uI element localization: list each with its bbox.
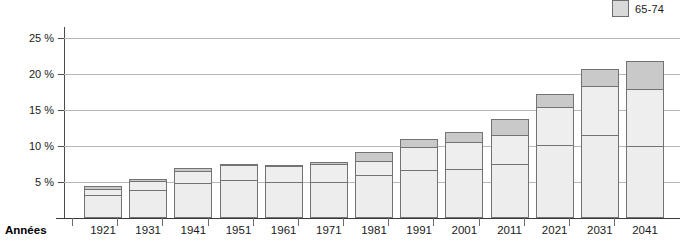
x-axis-tick-label: 2021: [542, 224, 568, 236]
chart-root: 65-74 25 %20 %15 %10 %5 % Années 1921193…: [0, 0, 690, 244]
x-axis-tick-label: 1951: [226, 224, 252, 236]
x-axis-line: [56, 218, 680, 219]
y-tick-mark: [58, 74, 64, 75]
bar-segment-75-84: [491, 135, 529, 165]
bar-segment-65-74: [129, 190, 167, 218]
bar-segment-65-74: [265, 182, 303, 218]
bar-segment-75-84: [536, 107, 574, 146]
bar-1941: [174, 168, 212, 218]
bar-1951: [220, 164, 258, 218]
bar-segment-65-74: [445, 169, 483, 218]
bar-segment-75-84: [400, 147, 438, 172]
y-tick-mark: [58, 110, 64, 111]
bar-segment-75-84: [445, 142, 483, 170]
x-axis-tick-label: 1961: [271, 224, 297, 236]
bar-1991: [400, 139, 438, 218]
bar-segment-65-74: [626, 146, 664, 218]
bar-2001: [445, 132, 483, 218]
bar-segment-85+: [626, 61, 664, 90]
x-axis-tick-label: 1941: [181, 224, 207, 236]
bar-segment-75-84: [626, 89, 664, 147]
bar-segment-65-74: [400, 170, 438, 218]
y-axis-line: [64, 27, 65, 218]
bar-1971: [310, 162, 348, 218]
gridline: [64, 38, 680, 39]
bar-1931: [129, 179, 167, 218]
bar-segment-75-84: [310, 164, 348, 183]
x-axis-tick-label: 2001: [452, 224, 478, 236]
y-axis-tick-label: 15 %: [0, 104, 54, 116]
x-axis-tick-label: 2041: [632, 224, 658, 236]
plot-area: [64, 27, 680, 218]
chart-legend: 65-74: [612, 0, 664, 17]
bar-1981: [355, 152, 393, 218]
x-axis-tick-label: 1931: [135, 224, 161, 236]
bar-2031: [581, 69, 619, 218]
bar-2041: [626, 61, 664, 218]
bar-segment-65-74: [310, 182, 348, 218]
x-axis-tick-label: 1991: [406, 224, 432, 236]
x-axis-tick-label: 2031: [587, 224, 613, 236]
legend-swatch-icon: [612, 0, 629, 17]
y-axis-tick-label: 25 %: [0, 32, 54, 44]
bar-segment-85+: [491, 119, 529, 136]
bar-2011: [491, 119, 529, 218]
x-axis-tick-label: 1981: [361, 224, 387, 236]
bar-segment-65-74: [174, 183, 212, 218]
y-tick-mark: [58, 146, 64, 147]
bar-segment-65-74: [355, 175, 393, 218]
x-axis-tick-label: 1921: [90, 224, 116, 236]
legend-label: 65-74: [635, 3, 664, 15]
x-axis-tick-label: 1971: [316, 224, 342, 236]
bar-segment-75-84: [581, 86, 619, 136]
y-tick-mark: [58, 182, 64, 183]
bar-1961: [265, 165, 303, 218]
bar-2021: [536, 94, 574, 218]
bar-segment-75-84: [265, 166, 303, 183]
bar-segment-75-84: [220, 165, 258, 181]
y-axis-tick-label: 5 %: [0, 176, 54, 188]
y-tick-mark: [58, 38, 64, 39]
bar-segment-65-74: [536, 145, 574, 218]
y-axis-tick-label: 10 %: [0, 140, 54, 152]
y-axis-tick-label: 20 %: [0, 68, 54, 80]
bar-segment-65-74: [581, 135, 619, 218]
bar-segment-75-84: [174, 171, 212, 185]
bar-segment-65-74: [84, 195, 122, 218]
x-axis-labels: 1921193119411951196119711981199120012011…: [0, 224, 690, 244]
bar-segment-65-74: [220, 180, 258, 218]
bar-segment-65-74: [491, 164, 529, 218]
x-axis-tick-label: 2011: [497, 224, 522, 236]
bar-segment-75-84: [355, 161, 393, 176]
bar-segment-85+: [581, 69, 619, 87]
bar-1921: [84, 186, 122, 218]
bar-segment-85+: [536, 94, 574, 108]
